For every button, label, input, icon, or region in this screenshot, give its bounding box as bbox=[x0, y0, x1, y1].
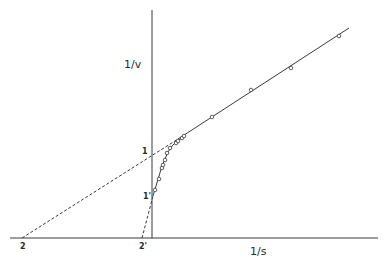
data-point-marker bbox=[157, 177, 161, 181]
data-point-marker bbox=[163, 158, 167, 162]
data-point-marker bbox=[210, 115, 214, 119]
series-layer bbox=[22, 28, 349, 238]
data-point-marker bbox=[176, 139, 180, 143]
lineweaver-burk-plot bbox=[0, 0, 386, 264]
data-point-marker bbox=[153, 188, 157, 192]
data-point-marker bbox=[337, 34, 341, 38]
curved-fit-low-line bbox=[153, 138, 182, 196]
data-point-marker bbox=[289, 66, 293, 70]
y-intercept-label-1-prime: 1' bbox=[143, 192, 151, 201]
x-intercept-label-2-prime: 2' bbox=[139, 242, 147, 251]
x-axis-label: 1/s bbox=[250, 245, 266, 258]
linear-fit-high-line bbox=[178, 28, 349, 139]
y-axis-label: 1/v bbox=[124, 58, 141, 71]
data-point-marker bbox=[161, 163, 165, 167]
data-point-marker bbox=[249, 88, 253, 92]
data-point-marker bbox=[165, 151, 169, 155]
data-point-marker bbox=[182, 134, 186, 138]
extrapolation-2-line bbox=[142, 196, 153, 238]
y-intercept-label-1: 1 bbox=[142, 147, 148, 156]
x-intercept-label-2: 2 bbox=[20, 242, 26, 251]
data-point-marker bbox=[168, 146, 172, 150]
